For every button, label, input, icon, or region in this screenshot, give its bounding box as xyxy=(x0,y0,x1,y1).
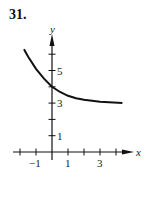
y-tick-labels: 135 xyxy=(57,65,63,142)
x-axis-arrow-icon xyxy=(122,150,134,155)
x-tick-label: 1 xyxy=(65,157,71,169)
x-tick-labels: −113 xyxy=(29,157,103,169)
x-tick-label: 3 xyxy=(97,157,103,169)
y-axis-arrow-icon xyxy=(50,34,55,46)
chart: −113 135 y x xyxy=(0,0,148,202)
y-tick-label: 5 xyxy=(57,65,63,77)
x-tick-label: −1 xyxy=(29,157,41,169)
y-axis-label: y xyxy=(49,23,55,35)
y-tick-label: 3 xyxy=(57,97,63,109)
x-axis-label: x xyxy=(135,146,141,158)
curve-line xyxy=(24,49,122,103)
y-tick-label: 1 xyxy=(57,130,63,142)
